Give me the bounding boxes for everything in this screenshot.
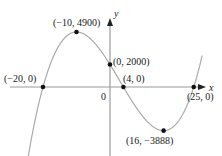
- cubic-curve: [26, 32, 202, 156]
- data-point: [191, 85, 196, 90]
- point-label-4-0: (4, 0): [123, 73, 145, 85]
- data-point: [121, 85, 126, 90]
- cubic-graph: x y 0 (−20, 0) (−10, 4900) (0, 2000) (4,…: [0, 0, 222, 156]
- point-label-25-0: (25, 0): [187, 91, 214, 103]
- y-axis-arrow-icon: [107, 18, 113, 26]
- point-label-0-2000: (0, 2000): [113, 56, 150, 68]
- data-point: [74, 30, 79, 35]
- origin-label: 0: [101, 91, 106, 102]
- y-axis-label: y: [113, 8, 119, 19]
- point-label-16-neg3888: (16, −3888): [126, 135, 173, 147]
- point-label-neg10-4900: (−10, 4900): [53, 17, 100, 29]
- data-point: [108, 62, 113, 67]
- x-axis-arrow-icon: [198, 84, 206, 90]
- labeled-points: [41, 30, 196, 133]
- point-label-neg20-0: (−20, 0): [4, 73, 36, 85]
- data-point: [41, 85, 46, 90]
- data-point: [161, 128, 166, 133]
